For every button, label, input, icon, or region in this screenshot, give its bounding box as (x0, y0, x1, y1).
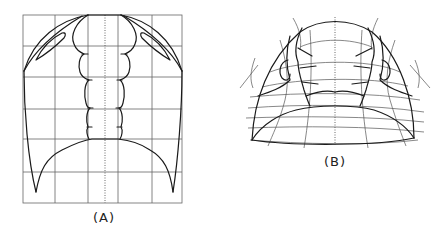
figure-a-outline (24, 15, 182, 192)
figure-b-label: (B) (324, 154, 346, 169)
diagram-canvas (0, 0, 444, 237)
figure-b (240, 17, 430, 148)
figure-a-label: (A) (93, 210, 115, 225)
figure-a (23, 15, 182, 203)
